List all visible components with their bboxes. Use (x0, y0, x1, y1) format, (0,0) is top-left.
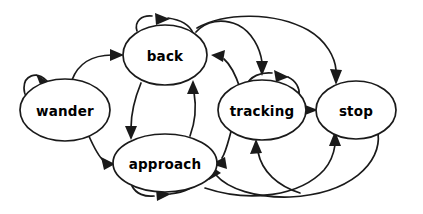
state-node-stop[interactable]: stop (316, 81, 396, 139)
edge-stop-to-approach (209, 133, 378, 197)
arrowhead-tracking-back (211, 50, 225, 62)
state-diagram-canvas: wander back approach tracking stop (0, 0, 423, 214)
state-label-wander: wander (36, 103, 94, 119)
state-label-back: back (147, 48, 184, 64)
edge-wander-to-approach (88, 134, 115, 170)
edge-stop-to-back (250, 139, 300, 193)
edge-approach-to-back (187, 80, 199, 136)
state-node-approach[interactable]: approach (113, 134, 217, 192)
arrowhead-stop-back (250, 139, 262, 154)
edge-wander-to-back (72, 49, 124, 80)
state-diagram: wander back approach tracking stop (0, 0, 423, 214)
node-layer: wander back approach tracking stop (20, 25, 396, 192)
arrowhead-back-self (155, 13, 170, 25)
arrowhead-wander-back (110, 49, 124, 61)
state-label-approach: approach (129, 156, 202, 172)
edge-back-to-approach (125, 83, 141, 140)
arrowhead-tracking-self (274, 70, 289, 82)
arrowhead-back-approach (125, 126, 137, 140)
state-node-back[interactable]: back (123, 25, 207, 85)
state-label-tracking: tracking (230, 103, 295, 119)
edge-back-to-stop (197, 16, 342, 85)
edge-tracking-to-back (211, 50, 240, 88)
state-label-stop: stop (339, 103, 373, 119)
state-node-wander[interactable]: wander (20, 79, 110, 141)
arrowhead-approach-back (187, 80, 199, 94)
state-node-tracking[interactable]: tracking (218, 80, 306, 140)
